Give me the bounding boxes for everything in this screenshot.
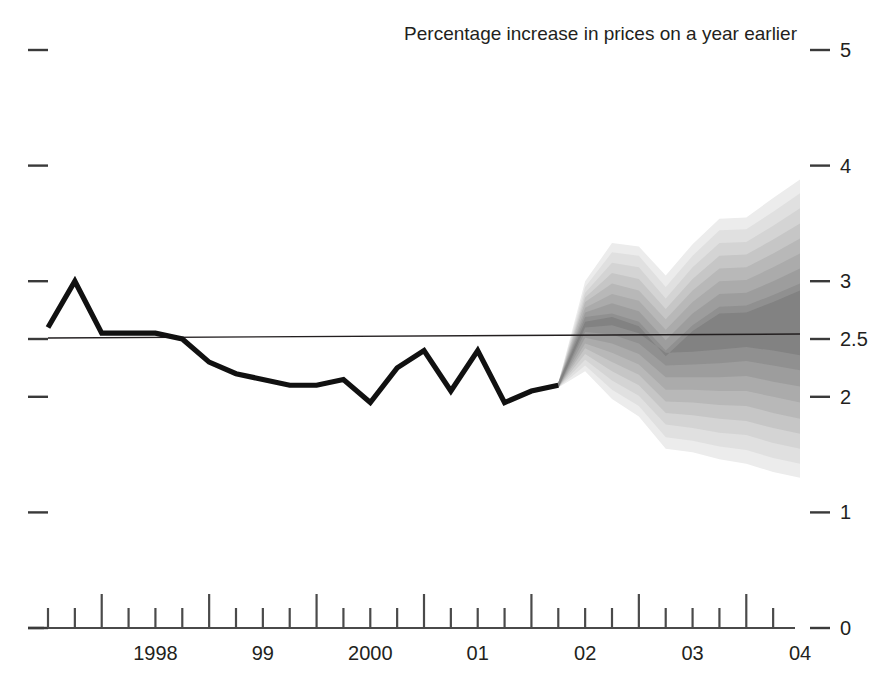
history-line bbox=[48, 281, 558, 402]
x-axis-tick-label: 02 bbox=[574, 642, 596, 664]
y-axis-tick-label: 2 bbox=[840, 386, 851, 408]
chart-canvas: 5432.5210 199899200001020304 Percentage … bbox=[0, 0, 886, 695]
left-axis-ticks bbox=[28, 50, 48, 628]
x-axis-tick-label: 01 bbox=[467, 642, 489, 664]
x-axis-tick-label: 1998 bbox=[133, 642, 178, 664]
y-axis-tick-label: 4 bbox=[840, 155, 851, 177]
x-axis-tick-label: 04 bbox=[789, 642, 811, 664]
x-axis-tick-label: 99 bbox=[252, 642, 274, 664]
x-axis-ticks bbox=[48, 594, 773, 628]
x-axis-tick-label: 2000 bbox=[348, 642, 393, 664]
y-axis-tick-label: 0 bbox=[840, 617, 851, 639]
y-axis-tick-label: 2.5 bbox=[840, 328, 868, 350]
right-axis-ticks bbox=[810, 50, 830, 628]
y-axis-tick-label: 1 bbox=[840, 501, 851, 523]
right-axis-labels: 5432.5210 bbox=[840, 39, 868, 639]
y-axis-tick-label: 5 bbox=[840, 39, 851, 61]
x-axis-tick-label: 03 bbox=[681, 642, 703, 664]
y-axis-tick-label: 3 bbox=[840, 270, 851, 292]
fan-bands-group bbox=[558, 179, 800, 477]
x-axis-labels: 199899200001020304 bbox=[133, 642, 811, 664]
chart-title: Percentage increase in prices on a year … bbox=[404, 23, 798, 44]
fan-chart: 5432.5210 199899200001020304 Percentage … bbox=[0, 0, 886, 695]
